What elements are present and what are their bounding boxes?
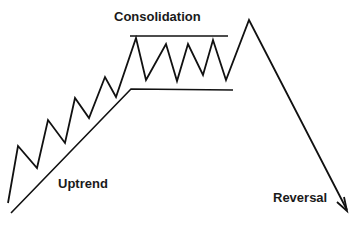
consolidation-label: Consolidation [114,9,201,24]
pattern-diagram: Consolidation Uptrend Reversal [0,0,355,227]
reversal-label: Reversal [273,190,327,205]
uptrend-label: Uptrend [58,176,108,191]
uptrend-support-line [11,89,233,213]
